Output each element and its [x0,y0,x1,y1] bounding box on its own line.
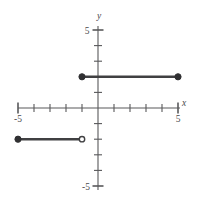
x-max-tick-label: 5 [176,114,181,124]
y-axis-label: y [96,11,102,21]
lower-segment-right-open-endpoint [79,137,84,142]
upper-segment-left-closed-endpoint [79,74,85,80]
lower-segment-left-closed-endpoint [15,136,21,142]
y-max-tick-label: 5 [85,26,90,36]
x-axis-label: x [181,98,187,108]
coordinate-plane: x y -5 5 5 -5 [0,0,198,203]
graph-figure: x y -5 5 5 -5 [0,0,198,203]
lower-segment-group [15,136,85,142]
x-axis-group [18,103,180,114]
y-min-tick-label: -5 [82,182,90,192]
x-min-tick-label: -5 [14,114,22,124]
upper-segment-group [79,74,181,80]
upper-segment-right-closed-endpoint [175,74,181,80]
